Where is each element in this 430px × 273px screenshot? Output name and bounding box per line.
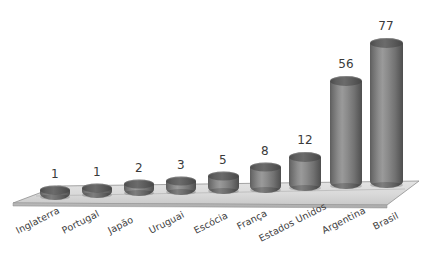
value-label: 3 xyxy=(177,158,185,172)
bar-argentina[interactable] xyxy=(330,81,362,189)
category-label: Japão xyxy=(106,214,135,236)
value-label: 12 xyxy=(297,133,313,147)
bar-base-shadow xyxy=(166,189,196,195)
bars-layer: 1Inglaterra1Portugal2Japão3Uruguai5Escóc… xyxy=(0,0,430,273)
category-label: Brasil xyxy=(371,210,400,232)
bar-top-cap xyxy=(250,163,281,172)
bar-base-shadow xyxy=(330,183,362,189)
bar-top-cap xyxy=(124,180,154,189)
bar-brasil[interactable] xyxy=(370,43,403,188)
category-label: Inglaterra xyxy=(14,204,61,235)
value-label: 56 xyxy=(338,57,354,71)
bar-top-cap xyxy=(289,152,321,162)
bar-portugal[interactable] xyxy=(82,188,112,198)
value-label: 8 xyxy=(261,144,269,158)
value-label: 5 xyxy=(219,153,227,167)
bar-base-shadow xyxy=(289,185,321,191)
bar-top-cap xyxy=(208,172,239,181)
category-label: Uruguai xyxy=(147,209,186,236)
bar-base-shadow xyxy=(250,187,281,193)
value-label: 2 xyxy=(135,161,143,175)
bar-base-shadow xyxy=(370,182,403,188)
bar-base-shadow xyxy=(124,190,154,196)
bar-inglaterra[interactable] xyxy=(40,190,70,200)
value-label: 1 xyxy=(51,167,59,181)
bar-base-shadow xyxy=(82,192,112,198)
value-label: 1 xyxy=(93,165,101,179)
category-label: Escócia xyxy=(192,209,229,235)
category-label: Estados Unidos xyxy=(257,200,328,243)
cylinder-bar-chart: 1Inglaterra1Portugal2Japão3Uruguai5Escóc… xyxy=(0,0,430,273)
category-label: Portugal xyxy=(60,208,101,236)
bar-estados-unidos[interactable] xyxy=(289,157,321,191)
bar-uruguai[interactable] xyxy=(166,181,196,195)
bar-base-shadow xyxy=(40,194,70,200)
bar-fran-a[interactable] xyxy=(250,167,281,193)
bar-jap-o[interactable] xyxy=(124,184,154,196)
bar-base-shadow xyxy=(208,188,239,194)
bar-top-cap xyxy=(370,38,403,48)
bar-top-cap xyxy=(166,177,196,186)
value-label: 77 xyxy=(378,19,394,33)
category-label: França xyxy=(235,207,269,231)
bar-esc-cia[interactable] xyxy=(208,176,239,194)
bar-top-cap xyxy=(330,76,362,86)
